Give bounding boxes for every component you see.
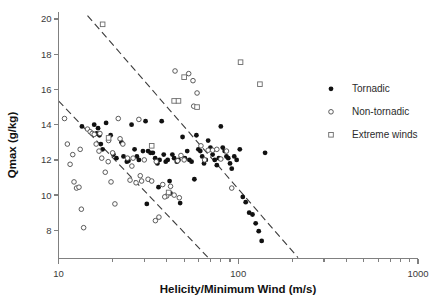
data-point xyxy=(228,161,233,166)
data-point xyxy=(144,202,149,207)
data-point xyxy=(137,117,142,122)
data-point xyxy=(125,156,130,161)
data-point xyxy=(240,194,245,199)
data-point xyxy=(78,147,83,152)
data-point xyxy=(161,152,166,157)
data-point xyxy=(116,116,121,121)
data-point xyxy=(176,99,181,104)
data-point xyxy=(143,119,148,124)
data-point xyxy=(194,133,199,138)
data-point xyxy=(77,185,82,190)
y-tick-group: 8101214161820 xyxy=(41,13,59,235)
data-point xyxy=(185,149,190,154)
data-point xyxy=(92,122,97,127)
x-tick-label: 100 xyxy=(230,268,246,279)
data-point xyxy=(259,238,264,243)
data-point xyxy=(103,170,108,175)
data-point xyxy=(229,166,234,171)
data-point xyxy=(238,60,243,65)
data-point xyxy=(70,152,75,157)
data-point xyxy=(192,177,197,182)
y-tick-label: 20 xyxy=(41,13,52,24)
data-point xyxy=(175,158,180,163)
data-point xyxy=(243,200,248,205)
data-point xyxy=(177,195,182,200)
data-point xyxy=(106,159,111,164)
data-point xyxy=(167,179,172,184)
scatter-chart-figure: 8101214161820 101001000 Helicity/Minimum… xyxy=(0,0,436,305)
legend-label: Extreme winds xyxy=(352,129,418,140)
data-point xyxy=(219,157,224,162)
data-point xyxy=(253,221,258,226)
y-tick-label: 18 xyxy=(41,49,52,60)
x-tick-label: 10 xyxy=(53,268,64,279)
data-point xyxy=(237,147,242,152)
legend-marker-filled-circle-icon xyxy=(329,86,334,91)
y-axis-title: Qmax (g/kg) xyxy=(6,112,18,179)
data-point xyxy=(110,151,115,156)
plot-area: 8101214161820 101001000 Helicity/Minimum… xyxy=(0,0,436,305)
data-point xyxy=(159,119,164,124)
data-point xyxy=(121,142,126,147)
legend-marker-open-square-icon xyxy=(329,133,334,138)
data-point xyxy=(134,180,139,185)
legend-marker-open-circle-icon xyxy=(329,110,334,115)
data-point xyxy=(206,148,211,153)
data-point xyxy=(98,131,103,136)
data-point xyxy=(62,116,67,121)
data-point xyxy=(180,135,185,140)
data-point xyxy=(142,158,147,163)
data-point xyxy=(129,122,134,127)
data-point xyxy=(99,156,104,161)
data-point xyxy=(114,156,119,161)
data-point xyxy=(250,212,255,217)
data-point xyxy=(130,164,135,169)
legend: TornadicNon-tornadicExtreme winds xyxy=(329,83,418,140)
data-point xyxy=(118,136,123,141)
x-tick-label: 1000 xyxy=(407,268,428,279)
data-point xyxy=(229,186,234,191)
data-point xyxy=(202,158,207,163)
data-point xyxy=(198,149,203,154)
y-tick-label: 16 xyxy=(41,84,52,95)
data-point xyxy=(182,75,187,80)
data-point xyxy=(131,156,136,161)
data-point xyxy=(160,182,165,187)
data-point xyxy=(136,158,141,163)
data-point xyxy=(263,150,268,155)
data-point xyxy=(165,158,170,163)
data-point xyxy=(138,173,143,178)
data-point xyxy=(81,225,86,230)
data-point xyxy=(212,158,217,163)
data-point xyxy=(173,69,178,74)
data-point xyxy=(72,180,77,185)
data-point xyxy=(98,142,103,147)
data-point xyxy=(214,163,219,168)
data-point xyxy=(172,193,177,198)
data-point xyxy=(96,126,101,131)
data-point xyxy=(166,190,171,195)
data-point xyxy=(256,229,261,234)
data-point xyxy=(104,121,109,126)
data-point xyxy=(189,159,194,164)
data-point xyxy=(157,215,162,220)
data-point xyxy=(92,132,97,137)
data-point xyxy=(79,207,84,212)
data-point xyxy=(149,144,154,149)
data-point xyxy=(195,105,200,110)
data-point xyxy=(109,180,114,185)
data-point xyxy=(195,91,200,96)
data-point xyxy=(139,179,144,184)
data-point xyxy=(179,153,184,158)
x-tick-group: 101001000 xyxy=(53,259,428,279)
y-tick-label: 10 xyxy=(41,190,52,201)
data-point xyxy=(191,78,196,83)
data-point xyxy=(154,159,159,164)
data-point-group xyxy=(62,22,267,243)
data-point xyxy=(65,142,70,147)
data-point xyxy=(106,136,111,141)
data-point xyxy=(206,138,211,143)
legend-label: Non-tornadic xyxy=(352,106,409,117)
y-tick-label: 8 xyxy=(46,225,51,236)
data-point xyxy=(100,22,105,27)
